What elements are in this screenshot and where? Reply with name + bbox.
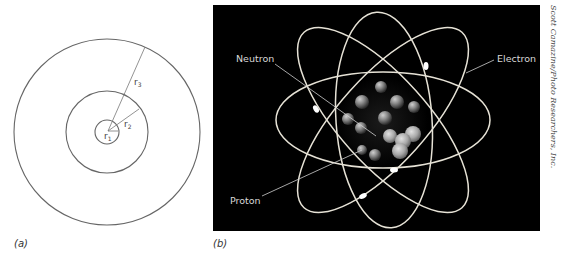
label-r3: r3 <box>134 77 142 88</box>
electron-leader <box>466 60 494 73</box>
label-r2: r2 <box>124 119 132 130</box>
panel-a-label: (a) <box>14 238 28 249</box>
electron-dot <box>390 168 398 173</box>
electron-dot <box>424 62 429 70</box>
proton-label: Proton <box>230 195 261 206</box>
panel-b-atom-model: Neutron Electron Proton <box>213 5 540 231</box>
atom-illustration: Neutron Electron Proton <box>213 5 540 231</box>
panel-a-concentric-circles: r3 r2 r1 <box>0 0 212 263</box>
proton-leader <box>262 150 362 196</box>
concentric-circles-diagram: r3 r2 r1 <box>0 0 212 263</box>
panel-b-label: (b) <box>213 238 227 249</box>
electron-label: Electron <box>497 53 536 64</box>
neutron-label: Neutron <box>236 53 274 64</box>
label-r1: r1 <box>104 131 112 142</box>
photo-credit: Scott Camazine/Photo Researchers, Inc. <box>549 5 558 145</box>
